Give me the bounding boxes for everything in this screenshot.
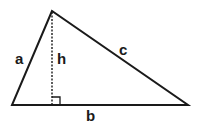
triangle-diagram: a h c b	[0, 0, 198, 125]
label-side-b: b	[86, 107, 95, 124]
triangle	[12, 11, 188, 105]
right-angle-marker	[52, 97, 60, 105]
label-height: h	[57, 50, 66, 67]
label-side-a: a	[15, 50, 24, 67]
label-side-c: c	[119, 41, 127, 58]
